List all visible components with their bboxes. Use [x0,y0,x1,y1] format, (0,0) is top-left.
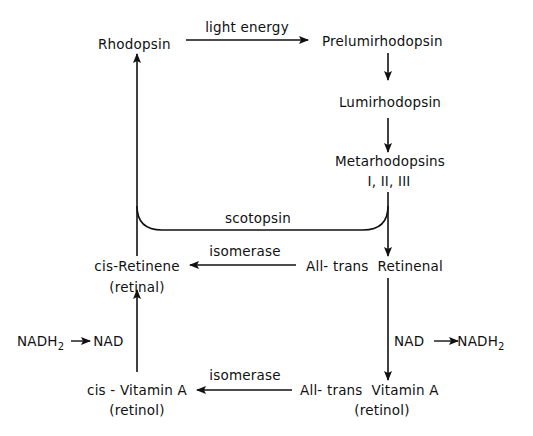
node-all-trans-vitamin-a-alias: (retinol) [354,402,410,418]
node-cis-retinene-alias: (retinal) [109,279,165,295]
label-light-energy: light energy [205,19,289,35]
node-lumirhodopsin: Lumirhodopsin [339,94,441,110]
cofactor-left: NADH2 NAD [17,333,124,349]
node-metarhodopsins: Metarhodopsins [335,153,445,169]
node-cis-vitamin-a: cis - Vitamin A [87,382,187,398]
label-isomerase-bottom: isomerase [209,367,280,383]
cofactor-left-from: NADH [17,333,58,349]
label-scotopsin: scotopsin [225,210,291,226]
cofactor-right-to: NADH [457,333,498,349]
cofactor-right-from: NAD [394,333,424,349]
node-prelumirhodopsin: Prelumirhodopsin [322,33,443,49]
cofactor-right: NAD NADH2 [394,333,505,349]
cofactor-left-to: NAD [93,333,123,349]
node-all-trans-vitamin-a: All- trans Vitamin A [300,382,439,398]
node-metarhodopsins-forms: I, II, III [367,173,410,189]
node-rhodopsin: Rhodopsin [98,36,171,52]
node-cis-retinene: cis-Retinene [94,258,179,274]
cofactor-right-to-subscript: 2 [498,341,505,352]
node-all-trans-retinenal: All- trans Retinenal [306,258,443,274]
node-cis-vitamin-a-alias: (retinol) [109,402,165,418]
label-isomerase-top: isomerase [209,243,280,259]
cofactor-left-from-subscript: 2 [58,341,65,352]
